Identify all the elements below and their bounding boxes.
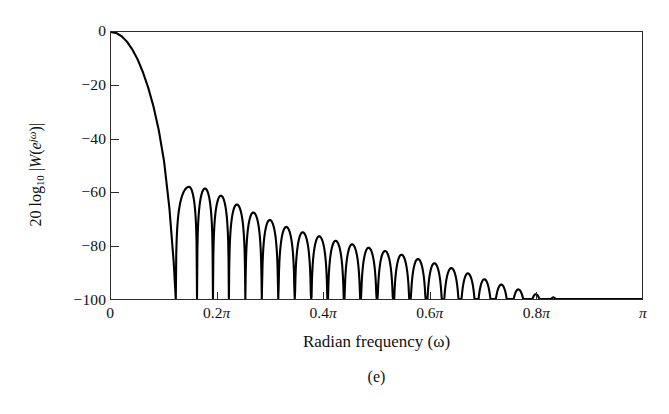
x-tick: 0.4π	[283, 304, 363, 322]
y-title-paren-close: )	[27, 126, 44, 131]
response-curve-svg	[111, 32, 642, 299]
y-title-prefix: 20 log	[27, 186, 44, 226]
x-axis-title: Radian frequency (ω)	[110, 332, 643, 352]
x-tick-label: 0.8π	[523, 304, 550, 321]
y-tick-label: −100	[50, 292, 106, 308]
figure-container: 0−20−40−60−80−100 00.2π0.4π0.6π0.8ππ 20 …	[0, 0, 669, 414]
x-tick: π	[603, 304, 669, 322]
y-title-log-base: 10	[34, 175, 46, 186]
y-title-bar-close: |	[27, 123, 44, 126]
figure-caption: (e)	[110, 368, 643, 386]
x-tick: 0	[70, 304, 150, 322]
y-tick-label: −40	[50, 131, 106, 147]
y-tick-label: −60	[50, 184, 106, 200]
plot-area	[110, 31, 643, 300]
y-title-w: W	[27, 155, 44, 168]
x-tick-label: 0.2π	[203, 304, 230, 321]
y-tick-label: −80	[50, 238, 106, 254]
y-title-exponent: jω	[26, 132, 38, 143]
x-tick: 0.2π	[177, 304, 257, 322]
response-curve-path	[111, 32, 642, 299]
x-tick-label: 0.4π	[310, 304, 337, 321]
y-axis-title: 20 log10 |W(ejω)|	[26, 60, 46, 290]
y-tick-label: −20	[50, 77, 106, 93]
y-title-bar-open: |	[27, 168, 44, 175]
x-tick-label: π	[639, 304, 647, 321]
x-tick-label: 0	[106, 304, 114, 321]
y-title-paren-open: (	[27, 149, 44, 154]
x-tick: 0.6π	[390, 304, 470, 322]
y-tick-label: 0	[50, 23, 106, 39]
x-tick: 0.8π	[496, 304, 576, 322]
y-title-e: e	[27, 142, 44, 149]
x-tick-label: 0.6π	[416, 304, 443, 321]
